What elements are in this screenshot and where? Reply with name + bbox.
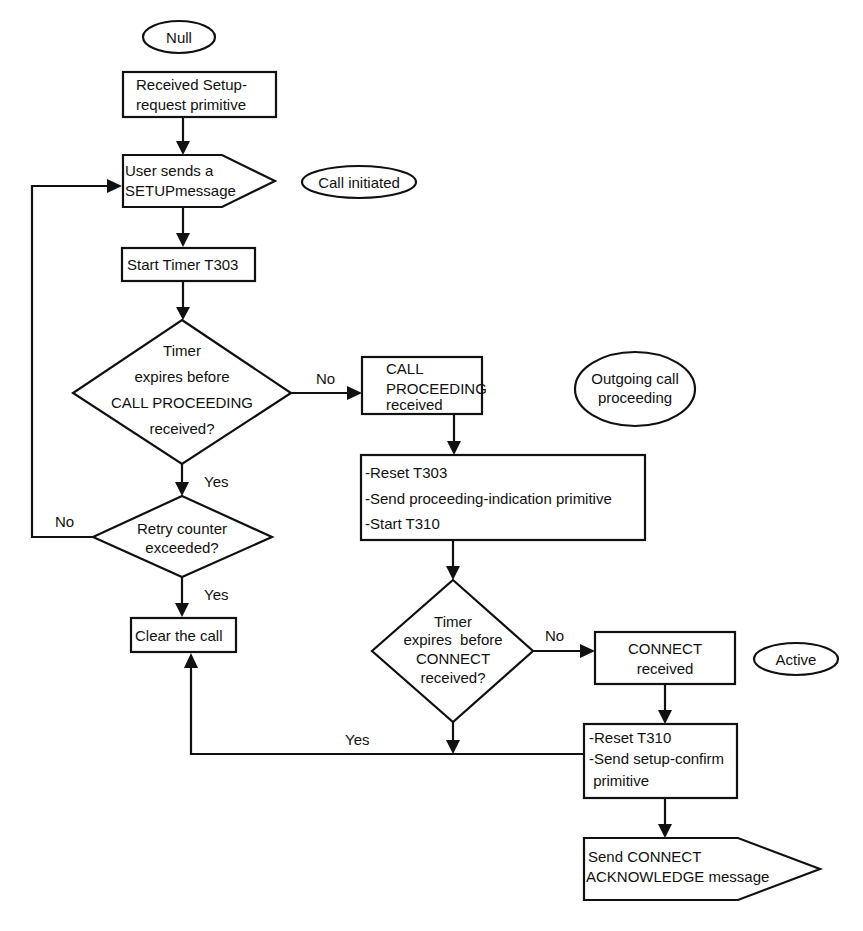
node-connect-received-line1: CONNECT xyxy=(628,640,702,657)
state-active: Active xyxy=(754,643,838,675)
arrow-d1-yes: Yes xyxy=(175,464,228,496)
state-call-initiated-label: Call initiated xyxy=(318,174,400,191)
node-connect-received: CONNECT received xyxy=(595,632,735,684)
decision-retry-line1: Retry counter xyxy=(137,520,227,537)
node-connect-received-line2: received xyxy=(637,660,694,677)
node-received-setup-request-line1: Received Setup- xyxy=(136,76,247,93)
node-proceeding-actions-line1: -Reset T303 xyxy=(365,464,447,481)
arrow-to-setup-message xyxy=(176,117,190,155)
label-d3-no: No xyxy=(545,627,564,644)
label-d2-yes: Yes xyxy=(204,586,228,603)
state-null-label: Null xyxy=(166,29,192,46)
decision-connect-line2: expires before xyxy=(403,631,502,648)
arrow-to-proceeding-actions xyxy=(447,414,461,455)
node-start-timer-label: Start Timer T303 xyxy=(127,256,238,273)
node-send-setup-message-line2: SETUPmessage xyxy=(125,182,236,199)
decision-call-proceeding-line2: expires before xyxy=(134,368,229,385)
label-d1-yes: Yes xyxy=(204,473,228,490)
node-proceeding-actions-line2: -Send proceeding-indication primitive xyxy=(365,490,612,507)
node-call-proceeding-received: CALL PROCEEDING received xyxy=(362,357,487,414)
node-proceeding-actions: -Reset T303 -Send proceeding-indication … xyxy=(361,455,645,540)
node-send-connect-ack-line2: ACKNOWLEDGE message xyxy=(586,868,769,885)
node-received-setup-request: Received Setup- request primitive xyxy=(123,72,276,117)
state-null: Null xyxy=(143,21,215,53)
state-outgoing-call-proceeding: Outgoing call proceeding xyxy=(575,352,695,426)
arrow-to-decision-connect xyxy=(446,540,460,580)
node-clear-call: Clear the call xyxy=(131,618,236,652)
state-outgoing-label-line2: proceeding xyxy=(598,389,672,406)
state-call-initiated: Call initiated xyxy=(302,166,416,198)
label-d1-no: No xyxy=(316,370,335,387)
decision-connect: Timer expires before CONNECT received? xyxy=(372,580,533,722)
arrow-to-decision-call-proceeding xyxy=(176,281,190,320)
arrow-d1-no: No xyxy=(291,370,362,400)
node-received-setup-request-line2: request primitive xyxy=(136,96,246,113)
node-call-proceeding-line3: received xyxy=(386,396,443,413)
state-active-label: Active xyxy=(776,651,817,668)
node-connect-actions-line2: -Send setup-confirm xyxy=(589,750,724,767)
decision-connect-line3: CONNECT xyxy=(416,650,490,667)
node-connect-actions: -Reset T310 -Send setup-confirm primitiv… xyxy=(584,724,737,798)
node-clear-call-label: Clear the call xyxy=(135,627,223,644)
arrow-to-connect-actions xyxy=(658,684,672,724)
decision-connect-line1: Timer xyxy=(434,613,472,630)
node-proceeding-actions-line3: -Start T310 xyxy=(365,515,440,532)
state-outgoing-label-line1: Outgoing call xyxy=(591,370,679,387)
node-send-connect-ack-line1: Send CONNECT xyxy=(588,848,701,865)
decision-call-proceeding-line3: CALL PROCEEDING xyxy=(111,394,253,411)
node-send-setup-message: User sends a SETUPmessage xyxy=(123,155,275,207)
node-send-connect-ack: Send CONNECT ACKNOWLEDGE message xyxy=(584,838,820,900)
label-d3-yes: Yes xyxy=(345,731,369,748)
node-start-timer-t303: Start Timer T303 xyxy=(122,248,255,281)
arrow-to-start-timer xyxy=(176,207,190,247)
decision-retry-counter: Retry counter exceeded? xyxy=(93,496,272,577)
arrow-d2-no-loop: No xyxy=(32,179,122,537)
decision-call-proceeding-line1: Timer xyxy=(163,342,201,359)
decision-retry-line2: exceeded? xyxy=(145,539,218,556)
node-call-proceeding-line2: PROCEEDING xyxy=(386,380,487,397)
decision-call-proceeding: Timer expires before CALL PROCEEDING rec… xyxy=(73,320,291,464)
node-connect-actions-line3: primitive xyxy=(589,772,649,789)
node-call-proceeding-line1: CALL xyxy=(386,360,424,377)
arrow-to-send-connect-ack xyxy=(658,798,672,838)
flowchart-diagram: Null Call initiated Outgoing call procee… xyxy=(0,0,863,931)
decision-connect-line4: received? xyxy=(420,669,485,686)
arrow-d3-yes: Yes xyxy=(184,653,584,754)
arrow-d3-no: No xyxy=(533,627,595,658)
decision-call-proceeding-line4: received? xyxy=(149,420,214,437)
node-connect-actions-line1: -Reset T310 xyxy=(589,729,671,746)
label-d2-no: No xyxy=(55,513,74,530)
arrow-d2-yes: Yes xyxy=(175,577,228,617)
node-send-setup-message-line1: User sends a xyxy=(125,162,214,179)
